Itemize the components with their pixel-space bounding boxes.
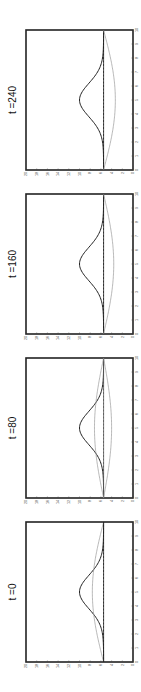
x-tick-label: 9: [135, 371, 139, 373]
x-tick-label: 9: [135, 43, 139, 45]
x-tick-label: 5: [135, 99, 139, 101]
x-tick-label: 1: [135, 155, 139, 157]
x-tick-label: 7: [135, 71, 139, 73]
chart-panel-240: t =24001234567891002468101214161820: [0, 10, 141, 190]
x-tick-label: 3: [135, 619, 139, 621]
x-tick-label: 7: [135, 235, 139, 237]
x-tick-label: 9: [135, 207, 139, 209]
series-line-upper: [92, 522, 103, 662]
y-tick-label: 4: [110, 664, 114, 666]
x-tick-label: 8: [135, 385, 139, 387]
x-tick-label: 3: [135, 455, 139, 457]
series-line-bell: [80, 194, 104, 334]
x-tick-label: 0: [135, 333, 139, 335]
series-line-lower: [104, 194, 114, 334]
x-tick-label: 3: [135, 291, 139, 293]
x-tick-label: 5: [135, 591, 139, 593]
y-tick-label: 6: [99, 664, 103, 666]
x-tick-label: 4: [135, 113, 139, 115]
panel-title: t =240: [7, 86, 18, 115]
x-tick-label: 2: [135, 469, 139, 471]
y-tick-label: 12: [67, 664, 71, 668]
y-tick-label: 10: [78, 664, 82, 668]
x-tick-label: 10: [135, 356, 139, 360]
series-line-lower: [104, 30, 116, 170]
chart-panel-0: t =001234567891002468101214161820: [0, 502, 141, 682]
series-line-bell: [80, 358, 104, 498]
y-tick-label: 18: [35, 664, 39, 668]
series-line-lower: [104, 358, 112, 498]
y-tick-label: 0: [131, 664, 135, 666]
x-tick-label: 6: [135, 577, 139, 579]
x-tick-label: 6: [135, 85, 139, 87]
x-tick-label: 8: [135, 221, 139, 223]
chart-panel-160: t =16001234567891002468101214161820: [0, 174, 141, 354]
y-tick-label: 20: [24, 664, 28, 668]
x-tick-label: 7: [135, 563, 139, 565]
x-tick-label: 6: [135, 413, 139, 415]
chart-panel-80: t =8001234567891002468101214161820: [0, 338, 141, 518]
x-tick-label: 5: [135, 263, 139, 265]
x-tick-label: 0: [135, 661, 139, 663]
x-tick-label: 1: [135, 319, 139, 321]
y-tick-label: 8: [88, 664, 92, 666]
panel-title: t =80: [7, 416, 18, 439]
y-tick-label: 2: [121, 664, 125, 666]
x-tick-label: 1: [135, 483, 139, 485]
x-tick-label: 4: [135, 441, 139, 443]
series-line-upper: [94, 358, 103, 498]
x-tick-label: 5: [135, 427, 139, 429]
x-tick-label: 8: [135, 549, 139, 551]
x-tick-label: 10: [135, 520, 139, 524]
x-tick-label: 4: [135, 277, 139, 279]
panel-title: t =160: [7, 250, 18, 279]
x-tick-label: 7: [135, 399, 139, 401]
panel-title: t =0: [7, 583, 18, 600]
x-tick-label: 2: [135, 633, 139, 635]
x-tick-label: 6: [135, 249, 139, 251]
series-line-bell: [80, 30, 104, 170]
x-tick-label: 9: [135, 535, 139, 537]
x-tick-label: 2: [135, 305, 139, 307]
x-tick-label: 10: [135, 192, 139, 196]
y-tick-label: 14: [56, 664, 60, 668]
x-tick-label: 1: [135, 647, 139, 649]
x-tick-label: 0: [135, 497, 139, 499]
series-line-bell: [80, 522, 104, 662]
x-tick-label: 8: [135, 57, 139, 59]
x-tick-label: 2: [135, 141, 139, 143]
x-tick-label: 3: [135, 127, 139, 129]
x-tick-label: 0: [135, 169, 139, 171]
x-tick-label: 4: [135, 605, 139, 607]
y-tick-label: 16: [46, 664, 50, 668]
x-tick-label: 10: [135, 28, 139, 32]
